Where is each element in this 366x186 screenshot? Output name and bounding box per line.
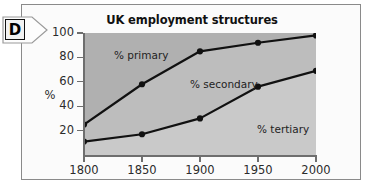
y-tick-label: 80 [48, 51, 74, 62]
x-tick-label: 1850 [121, 163, 163, 177]
y-tick-label: 20 [48, 125, 74, 136]
x-tick-mark [257, 156, 258, 162]
y-tick-label-container: 60 [42, 76, 74, 88]
band-label-tertiary: % tertiary [257, 123, 309, 135]
y-axis-title: % [42, 88, 58, 102]
chart-card: UK employment structures 20406080100 180… [21, 4, 361, 180]
panel-marker: D [2, 16, 48, 44]
y-tick-label: 60 [48, 76, 74, 87]
x-tick-label: 1800 [63, 163, 105, 177]
y-tick-mark [77, 81, 83, 82]
plot-wrapper: 20406080100 18001850190019502000 % % pri… [22, 5, 362, 181]
x-tick-label: 2000 [295, 163, 337, 177]
x-tick-label: 1900 [179, 163, 221, 177]
figure-root: UK employment structures 20406080100 180… [0, 0, 366, 186]
x-tick-label: 1950 [237, 163, 279, 177]
y-tick-mark [77, 130, 83, 131]
y-tick-mark [77, 106, 83, 107]
y-tick-mark [77, 57, 83, 58]
x-tick-mark [199, 156, 200, 162]
panel-marker-letter: D [5, 19, 25, 40]
x-tick-mark [141, 156, 142, 162]
x-tick-mark [83, 156, 84, 162]
y-tick-label-container: 20 [42, 125, 74, 137]
band-label-secondary: % secondary [190, 78, 258, 90]
y-tick-label-container: 80 [42, 51, 74, 63]
band-label-primary: % primary [114, 49, 168, 61]
y-tick-mark [77, 32, 83, 33]
y-axis-line [83, 33, 85, 156]
y-tick-label: 100 [48, 27, 74, 38]
x-tick-mark [315, 156, 316, 162]
